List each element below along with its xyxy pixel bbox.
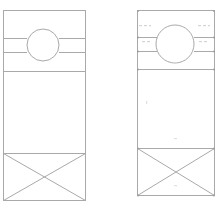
dimension-label-mark (198, 25, 201, 26)
node-dot (137, 195, 139, 197)
node-dot (213, 37, 215, 39)
node-dot (137, 148, 139, 150)
right-view (137, 10, 215, 196)
node-dot (137, 51, 139, 53)
dimension-label-mark (208, 25, 210, 26)
right-circle (156, 25, 194, 63)
dimension-label-mark (174, 185, 177, 186)
dimension-label-mark (204, 41, 207, 42)
dimension-label-mark (139, 25, 142, 26)
dimension-label-mark (146, 101, 147, 104)
dimension-label-mark (142, 41, 145, 42)
dimension-label-mark (199, 41, 202, 42)
left-circle (27, 29, 59, 61)
node-dot (137, 69, 139, 71)
dimension-label-mark (173, 62, 177, 63)
dimension-label-mark (144, 25, 147, 26)
node-dot (137, 37, 139, 39)
node-dot (137, 10, 139, 12)
node-dot (213, 195, 215, 197)
dimension-label-mark (203, 25, 206, 26)
node-dot (213, 51, 215, 53)
dimension-label-mark (147, 41, 150, 42)
dimension-label-mark (149, 25, 151, 26)
left-view (4, 11, 86, 201)
node-dot (213, 10, 215, 12)
right-outline (138, 11, 215, 196)
dimension-label-mark (174, 138, 177, 139)
dimension-labels (139, 25, 210, 186)
node-dot (213, 148, 215, 150)
node-dot (213, 69, 215, 71)
drawing-canvas (0, 0, 218, 206)
